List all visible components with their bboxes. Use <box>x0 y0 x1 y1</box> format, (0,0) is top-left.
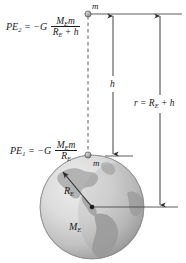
label-earth-radius: RE <box>64 186 74 196</box>
equation-pe2-lhs: PE2 <box>6 21 21 32</box>
equation-pe1-lhs: PE1 <box>10 145 25 156</box>
label-earth-mass: ME <box>69 222 81 232</box>
earth-terminator <box>78 163 158 263</box>
equation-pe1: PE1 = −G MEm RE <box>10 141 78 163</box>
equation-pe2-lhs-subscript: 2 <box>18 26 21 33</box>
diagram-canvas <box>0 0 186 263</box>
label-distance-r: r = RE + h <box>134 99 175 109</box>
equation-pe2-denominator: RE + h <box>51 26 81 38</box>
earth-center-dot <box>90 205 95 210</box>
label-mass-surface: m <box>93 159 100 168</box>
equation-pe2-fraction: MEm RE + h <box>51 17 81 39</box>
mass-top <box>85 11 91 17</box>
equation-pe1-lhs-subscript: 1 <box>22 150 25 157</box>
equation-pe1-operator: = −G <box>28 145 51 156</box>
equation-pe1-denominator: RE <box>55 150 78 162</box>
equation-pe2: PE2 = −G MEm RE + h <box>6 17 81 39</box>
mass-at-surface <box>85 152 91 158</box>
equation-pe1-numerator: MEm <box>55 141 78 151</box>
equation-pe1-fraction: MEm RE <box>55 141 78 163</box>
physics-diagram-gravitational-potential-energy: PE2 = −G MEm RE + h PE1 = −G MEm RE m m … <box>0 0 186 263</box>
earth-globe <box>40 155 158 263</box>
equation-pe2-numerator: MEm <box>51 17 81 27</box>
equation-pe2-operator: = −G <box>24 21 47 32</box>
label-height-h: h <box>110 80 115 90</box>
label-mass-top: m <box>92 2 99 11</box>
